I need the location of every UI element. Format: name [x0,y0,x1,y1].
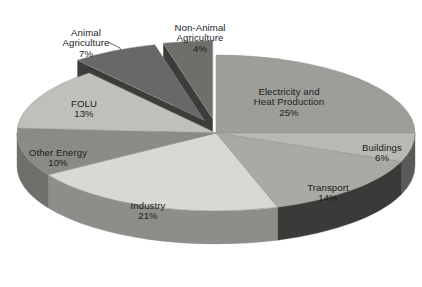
slice-label-folu-text: FOLU [71,98,97,109]
slice-value-non-animal-agriculture: 4% [155,44,245,55]
slice-value-other-energy: 10% [17,158,99,169]
slice-value-transport: 14% [294,193,362,204]
slice-value-animal-agriculture: 7% [48,49,124,60]
slice-label-folu: FOLU 13% [59,88,109,131]
slice-label-other-energy-text: Other Energy [29,147,87,158]
slice-label-transport-text: Transport [307,182,349,193]
slice-label-electricity-and-heat-production-text: Electricity and Heat Production [254,86,324,108]
slice-label-electricity-and-heat-production: Electricity and Heat Production 25% [233,76,345,130]
slice-value-folu: 13% [59,109,109,120]
slice-label-non-animal-agriculture-text: Non-Animal Agriculture [174,22,225,44]
slice-value-buildings: 6% [349,153,415,164]
slice-label-industry: Industry 21% [117,190,179,233]
slice-value-electricity-and-heat-production: 25% [233,108,345,119]
slice-label-non-animal-agriculture: Non-Animal Agriculture 4% [155,12,245,66]
slice-label-animal-agriculture-text: Animal Agriculture [63,27,110,49]
slice-label-other-energy: Other Energy 10% [17,137,99,180]
slice-label-animal-agriculture: Animal Agriculture 7% [48,17,124,71]
slice-value-industry: 21% [117,211,179,222]
slice-label-industry-text: Industry [131,200,166,211]
slice-label-buildings: Buildings 6% [349,132,415,175]
slice-label-transport: Transport 14% [294,172,362,215]
pie-chart: Animal Agriculture 7% Non-Animal Agricul… [0,0,422,287]
slice-label-buildings-text: Buildings [362,142,402,153]
